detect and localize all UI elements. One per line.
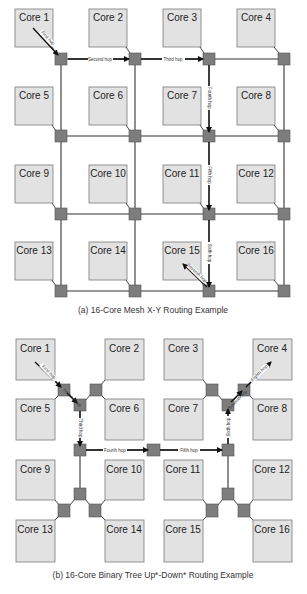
core-label: Core 11 <box>166 464 201 475</box>
tree-caption: (b) 16-Core Binary Tree Up*-Down* Routin… <box>53 570 254 580</box>
hop-label-fifth: Fifth hop <box>207 166 212 184</box>
tree-core-3: Core 3 <box>164 339 203 380</box>
core-label: Core 4 <box>241 12 271 23</box>
mesh-core-9: Core 9 <box>15 165 56 209</box>
core-label: Core 11 <box>165 168 200 179</box>
tree-hop-labels: First hop Second hop Third hop Fourth ho… <box>39 363 270 453</box>
core-label: Core 2 <box>93 12 123 23</box>
hop-label-fifth: Fifth hop <box>180 448 198 453</box>
tree-core-7: Core 7 <box>164 399 203 440</box>
core-label: Core 9 <box>19 168 49 179</box>
mesh-core-13: Core 13 <box>15 242 56 286</box>
core-label: Core 3 <box>168 343 198 354</box>
hop-label-third: Third hop <box>78 418 83 438</box>
core-label: Core 9 <box>20 464 50 475</box>
tree-core-14: Core 14 <box>105 520 144 562</box>
core-label: Core 5 <box>20 403 50 414</box>
mesh-core-7: Core 7 <box>163 87 204 131</box>
core-label: Core 1 <box>19 12 49 23</box>
mesh-core-2: Core 2 <box>89 9 130 53</box>
core-label: Core 8 <box>241 90 271 101</box>
mesh-core-6: Core 6 <box>89 87 130 131</box>
hop-label-fourth: Fourth hop <box>207 87 212 109</box>
core-label: Core 13 <box>16 245 52 256</box>
hop-label-second: Second hop <box>62 387 83 408</box>
mesh-diagram: Core 1 Core 2 Core 3 Core 4 Core 5 Core … <box>15 9 290 315</box>
routing-figure: Core 1 Core 2 Core 3 Core 4 Core 5 Core … <box>0 0 307 594</box>
core-label: Core 4 <box>257 343 287 354</box>
mesh-core-12: Core 12 <box>237 165 279 209</box>
core-label: Core 8 <box>257 403 287 414</box>
tree-core-10: Core 10 <box>105 460 144 500</box>
mesh-caption: (a) 16-Core Mesh X-Y Routing Example <box>78 305 228 315</box>
core-label: Core 7 <box>167 90 197 101</box>
mesh-core-5: Core 5 <box>15 87 56 131</box>
tree-core-5: Core 5 <box>16 399 55 440</box>
hop-label-second: Second hop <box>88 57 113 62</box>
tree-route <box>35 362 271 450</box>
core-label: Core 5 <box>19 90 49 101</box>
core-label: Core 2 <box>109 343 139 354</box>
hop-label-sixth: Sixth hop <box>207 244 212 263</box>
hop-label-fourth: Fourth hop <box>104 448 126 453</box>
core-label: Core 12 <box>238 168 274 179</box>
core-label: Core 15 <box>164 245 200 256</box>
core-label: Core 14 <box>106 524 142 535</box>
tree-diagram: Core 1 Core 2 Core 3 Core 4 Core 5 Core … <box>16 339 292 580</box>
tree-core-8: Core 8 <box>253 399 292 440</box>
mesh-core-3: Core 3 <box>163 9 204 53</box>
tree-core-2: Core 2 <box>105 339 144 380</box>
core-label: Core 16 <box>238 245 274 256</box>
tree-core-12: Core 12 <box>253 460 292 500</box>
tree-core-16: Core 16 <box>253 520 292 562</box>
core-label: Core 6 <box>93 90 123 101</box>
core-label: Core 12 <box>254 464 290 475</box>
tree-core-15: Core 15 <box>164 520 203 562</box>
mesh-core-4: Core 4 <box>237 9 279 53</box>
core-label: Core 13 <box>17 524 53 535</box>
core-label: Core 10 <box>90 168 126 179</box>
mesh-core-8: Core 8 <box>237 87 279 131</box>
mesh-core-16: Core 16 <box>237 242 279 286</box>
core-label: Core 15 <box>165 524 201 535</box>
core-label: Core 16 <box>254 524 290 535</box>
mesh-core-14: Core 14 <box>89 242 130 286</box>
core-label: Core 14 <box>90 245 126 256</box>
mesh-core-11: Core 11 <box>163 165 204 209</box>
mesh-core-10: Core 10 <box>89 165 130 209</box>
core-label: Core 10 <box>106 464 142 475</box>
tree-core-9: Core 9 <box>16 460 55 500</box>
core-label: Core 6 <box>109 403 139 414</box>
tree-core-11: Core 11 <box>164 460 203 500</box>
core-label: Core 1 <box>20 343 50 354</box>
core-label: Core 7 <box>168 403 198 414</box>
tree-core-13: Core 13 <box>16 520 55 562</box>
hop-label-sixth: Sixth hop <box>226 417 231 436</box>
hop-label-third: Third hop <box>163 57 183 62</box>
core-label: Core 3 <box>167 12 197 23</box>
tree-core-6: Core 6 <box>105 399 144 440</box>
